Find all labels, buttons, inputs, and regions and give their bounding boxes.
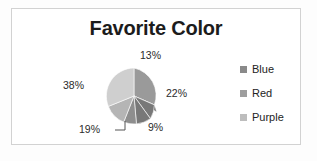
pie-chart: 13% 22% 9% 19% 38% bbox=[62, 51, 207, 141]
legend-swatch-icon-red bbox=[240, 90, 247, 97]
legend-swatch-icon-blue bbox=[240, 66, 247, 73]
legend-label-purple: Purple bbox=[252, 112, 284, 123]
legend-label-red: Red bbox=[252, 88, 272, 99]
legend-item-purple[interactable]: Purple bbox=[240, 105, 306, 129]
chart-screenshot: Favorite Color bbox=[0, 0, 317, 161]
plot-area: 13% 22% 9% 19% 38% bbox=[62, 51, 207, 141]
pie-label-38: 38% bbox=[63, 79, 84, 91]
chart-legend: Blue Red Purple bbox=[240, 57, 306, 129]
chart-frame: Favorite Color bbox=[11, 8, 301, 145]
legend-label-blue: Blue bbox=[252, 64, 274, 75]
legend-item-red[interactable]: Red bbox=[240, 81, 306, 105]
chart-title: Favorite Color bbox=[12, 17, 300, 40]
legend-swatch-icon-purple bbox=[240, 114, 247, 121]
pie-label-22: 22% bbox=[166, 87, 187, 99]
legend-item-blue[interactable]: Blue bbox=[240, 57, 306, 81]
pie-slices bbox=[106, 68, 156, 124]
pie-label-13: 13% bbox=[140, 49, 161, 61]
pie-label-9: 9% bbox=[148, 121, 163, 133]
pie-label-19: 19% bbox=[79, 123, 100, 135]
